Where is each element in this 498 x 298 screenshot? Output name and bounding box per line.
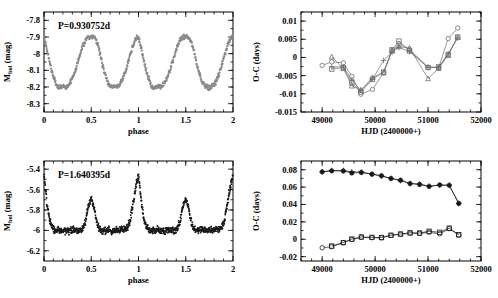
data-point xyxy=(194,57,196,59)
data-point xyxy=(84,224,86,226)
data-point xyxy=(190,218,192,220)
y-axis-title: O-C (days) xyxy=(251,191,261,231)
data-point xyxy=(138,38,140,40)
data-point xyxy=(43,177,45,179)
x-axis-title: HJD (2400000+) xyxy=(361,126,421,136)
data-point xyxy=(229,192,231,194)
data-point xyxy=(190,220,192,222)
data-point xyxy=(140,193,142,195)
x-axis-title: phase xyxy=(128,275,149,285)
data-point xyxy=(139,185,141,187)
data-point xyxy=(218,71,220,73)
data-layer xyxy=(43,34,234,92)
y-axis-title: Mbol (mag) xyxy=(2,191,13,231)
x-tick-label: 51000 xyxy=(417,115,438,125)
data-point xyxy=(83,227,85,229)
data-point xyxy=(142,209,144,211)
x-tick-label: 2 xyxy=(231,115,235,125)
data-point xyxy=(181,210,183,212)
data-point xyxy=(187,203,189,205)
data-point xyxy=(216,80,218,82)
data-point xyxy=(116,226,118,228)
data-point xyxy=(145,222,147,224)
y-tick-label: 0.02 xyxy=(282,217,297,227)
data-point xyxy=(230,183,232,185)
data-point xyxy=(138,181,140,183)
data-point xyxy=(45,41,47,43)
data-point xyxy=(97,223,99,225)
y-tick-label: 0 xyxy=(293,52,297,62)
data-point xyxy=(47,205,49,207)
data-point xyxy=(54,77,56,79)
data-point xyxy=(48,216,50,218)
data-point xyxy=(83,225,85,227)
x-tick-label: 0 xyxy=(42,264,46,274)
data-point xyxy=(195,59,197,61)
data-point xyxy=(105,74,107,76)
x-tick-label: 1.5 xyxy=(180,264,191,274)
data-point xyxy=(186,200,188,202)
y-tick-label: -6 xyxy=(33,225,40,235)
period-annotation: P=1.640395d xyxy=(58,170,111,180)
y-tick-label: 0 xyxy=(293,234,297,244)
data-point xyxy=(215,84,217,86)
y-tick-label: -6.2 xyxy=(27,246,40,256)
x-tick-label: 0 xyxy=(42,115,46,125)
data-point xyxy=(88,205,90,207)
data-point xyxy=(129,224,131,226)
data-point xyxy=(140,200,142,202)
panel-bottom-right-oc-diagram: 490005000051000520000.080.060.040.020-0.… xyxy=(249,149,498,298)
data-point xyxy=(139,187,141,189)
data-point xyxy=(175,232,177,234)
data-point xyxy=(144,63,146,65)
data-point xyxy=(130,217,132,219)
y-tick-label: 0.01 xyxy=(282,16,297,26)
data-point xyxy=(75,67,77,69)
y-tick-label: 0.04 xyxy=(282,199,298,209)
data-point xyxy=(172,61,174,63)
data-point xyxy=(50,218,52,220)
data-point xyxy=(51,71,53,73)
plot-frame xyxy=(301,12,481,112)
data-point xyxy=(96,221,98,223)
data-point xyxy=(180,220,182,222)
data-point xyxy=(101,62,103,64)
data-point xyxy=(182,206,184,208)
data-point xyxy=(193,49,195,51)
data-point xyxy=(86,212,88,214)
data-point xyxy=(103,68,105,70)
data-point xyxy=(142,207,144,209)
data-point xyxy=(227,197,229,199)
figure-container: 00.511.52-8.3-8.2-8.1-8-7.9-7.8phaseMbol… xyxy=(0,0,498,298)
data-point xyxy=(91,196,93,198)
series-line xyxy=(322,171,459,204)
y-axis-title: Mbol (mag) xyxy=(2,42,13,82)
data-point xyxy=(175,49,177,51)
y-tick-label: -0.02 xyxy=(279,252,297,262)
data-point xyxy=(48,57,50,59)
data-point xyxy=(148,76,150,78)
data-point xyxy=(138,174,140,176)
data-point xyxy=(43,175,45,177)
data-point xyxy=(226,204,228,206)
data-point xyxy=(121,228,123,230)
data-point xyxy=(147,224,149,226)
y-tick-label: -8.2 xyxy=(27,82,40,92)
y-tick-label: -0.01 xyxy=(279,89,297,99)
series-line xyxy=(332,38,458,90)
data-point xyxy=(80,52,82,54)
x-tick-label: 52000 xyxy=(470,115,491,125)
data-point xyxy=(178,43,180,45)
data-point xyxy=(136,181,138,183)
y-tick-label: -0.005 xyxy=(275,71,297,81)
plot-svg: 00.511.52-6.2-6-5.8-5.6-5.4phaseMbol (ma… xyxy=(0,149,249,298)
data-point xyxy=(53,226,55,228)
y-tick-label: 0.005 xyxy=(278,34,297,44)
data-point xyxy=(191,41,193,43)
x-tick-label: 50000 xyxy=(364,115,385,125)
data-point xyxy=(65,232,67,234)
data-point xyxy=(199,76,201,78)
data-point xyxy=(169,71,171,73)
data-point xyxy=(140,197,142,199)
data-point xyxy=(226,48,228,50)
